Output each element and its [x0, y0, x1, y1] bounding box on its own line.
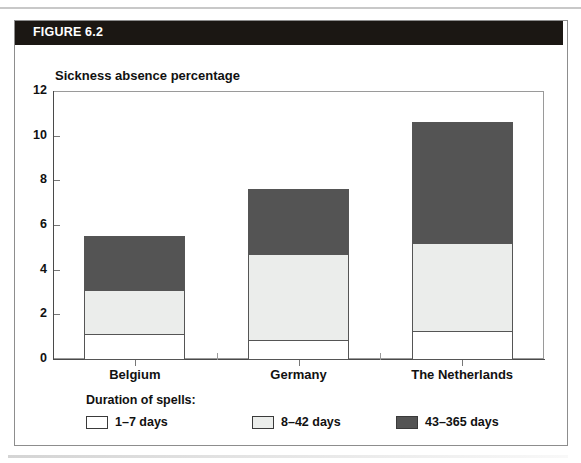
page-bottom-rule — [8, 455, 568, 458]
y-tick-label: 12 — [17, 84, 47, 97]
bar-segment — [84, 290, 185, 336]
bar-segment — [248, 254, 349, 341]
x-category-label: The Netherlands — [380, 367, 544, 382]
bar-group — [412, 91, 513, 359]
legend-label: 8–42 days — [281, 415, 341, 429]
x-tick-mark — [380, 353, 381, 360]
chart-title: Sickness absence percentage — [55, 68, 240, 83]
x-tick-mark — [217, 353, 218, 360]
y-axis-ticks: 024681012 — [15, 21, 53, 447]
y-tick-label: 8 — [17, 173, 47, 186]
legend-label: 43–365 days — [425, 415, 499, 429]
bar-segment — [248, 340, 349, 360]
y-tick-mark — [54, 225, 60, 226]
y-tick-mark — [54, 314, 60, 315]
y-tick-label: 4 — [17, 263, 47, 276]
bar-group — [248, 91, 349, 359]
y-tick-label: 6 — [17, 218, 47, 231]
bar-segment — [412, 122, 513, 244]
bar-group — [84, 91, 185, 359]
bar-segment — [412, 331, 513, 360]
bar-segment — [412, 243, 513, 332]
figure-header-bar: FIGURE 6.2 — [15, 21, 563, 45]
x-category-label: Germany — [217, 367, 381, 382]
legend-swatch — [86, 416, 108, 429]
y-tick-mark — [54, 136, 60, 137]
x-tick-mark — [135, 360, 136, 366]
x-category-label: Belgium — [53, 367, 217, 382]
page-top-rule — [0, 7, 581, 9]
y-tick-label: 0 — [17, 352, 47, 365]
y-tick-label: 2 — [17, 307, 47, 320]
x-tick-mark — [299, 360, 300, 366]
legend-label: 1–7 days — [115, 415, 168, 429]
y-tick-mark — [54, 180, 60, 181]
x-tick-mark — [462, 360, 463, 366]
y-tick-mark — [54, 270, 60, 271]
bar-segment — [84, 236, 185, 291]
legend-title: Duration of spells: — [86, 393, 196, 407]
bar-segment — [248, 189, 349, 255]
bar-segment — [84, 334, 185, 360]
figure-container: FIGURE 6.2 Sickness absence percentage 0… — [14, 20, 568, 446]
y-tick-label: 10 — [17, 129, 47, 142]
legend-swatch — [252, 416, 274, 429]
legend-swatch — [396, 416, 418, 429]
